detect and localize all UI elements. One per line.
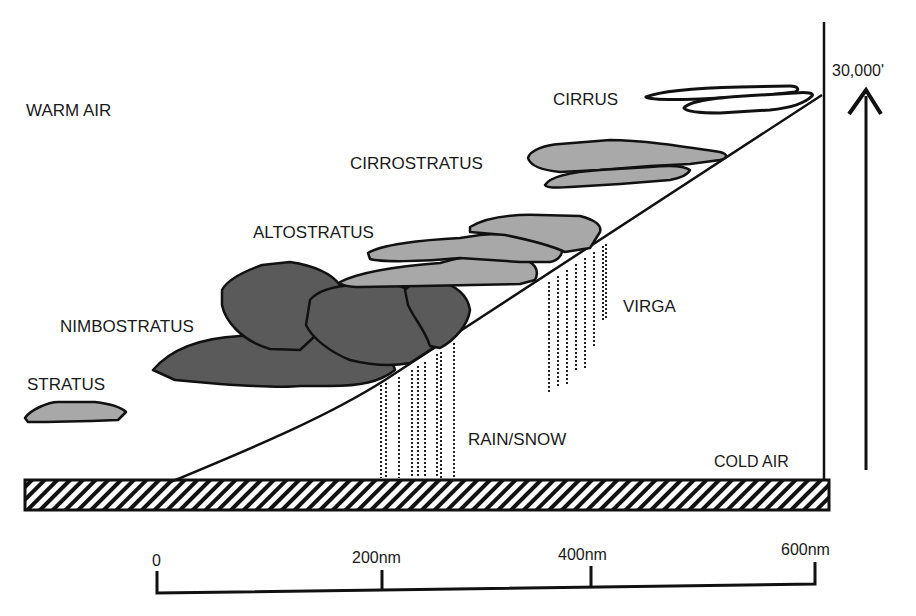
- cirrus-label: CIRRUS: [553, 90, 618, 109]
- ground-bar: [25, 480, 829, 510]
- stratus-label: STRATUS: [27, 375, 105, 394]
- warm-air-label: WARM AIR: [26, 101, 111, 120]
- nimbostratus-label: NIMBOSTRATUS: [60, 317, 194, 336]
- scale-tick-0: 0: [152, 552, 161, 569]
- virga-label: VIRGA: [623, 297, 677, 316]
- altitude-label: 30,000': [832, 62, 884, 79]
- cold-air-label: COLD AIR: [714, 453, 789, 470]
- cirrostratus-label: CIRROSTRATUS: [350, 154, 483, 173]
- cirrus-cloud: [646, 86, 812, 113]
- altitude-arrow: [849, 90, 881, 470]
- scale-tick-600nm: 600nm: [781, 541, 830, 558]
- stratus-cloud: [25, 402, 126, 422]
- altostratus-label: ALTOSTRATUS: [253, 223, 374, 242]
- cirrostratus-cloud: [528, 140, 726, 188]
- scale-tick-400nm: 400nm: [558, 546, 607, 563]
- distance-scale: 0 200nm 400nm 600nm: [152, 541, 830, 593]
- warm-front-diagram: 0 200nm 400nm 600nm WARM AIR CIRRUS CIRR…: [0, 0, 916, 616]
- rain-snow-label: RAIN/SNOW: [468, 430, 566, 449]
- scale-tick-200nm: 200nm: [352, 549, 401, 566]
- altostratus-cloud: [340, 215, 600, 287]
